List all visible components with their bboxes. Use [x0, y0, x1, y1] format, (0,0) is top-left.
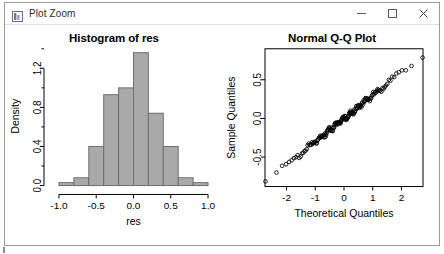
- qq-x-tick-label: 2: [399, 192, 405, 203]
- histogram-x-axis-label: res: [126, 216, 141, 227]
- plot-window-icon: [12, 8, 23, 19]
- histogram-x-tick-label: 0.0: [127, 200, 141, 211]
- qq-y-tick-label: 0.0: [251, 111, 262, 125]
- histogram-y-tick-label: 0.8: [31, 100, 42, 114]
- window-title: Plot Zoom: [29, 8, 75, 19]
- plot-zoom-window: Plot Zoom Histogram of re: [4, 2, 440, 246]
- qq-plot: -0.50.00.5Sample Quantiles-2-1012Theoret…: [223, 25, 439, 245]
- qq-x-axis-label: Theoretical Quantiles: [294, 208, 393, 219]
- histogram-x-tick-label: 0.5: [164, 200, 178, 211]
- histogram-bar: [74, 178, 89, 186]
- plot-surface: Histogram of res 0.00.40.81.2Density-1.0…: [5, 25, 439, 245]
- histogram-bar: [134, 53, 149, 186]
- histogram-x-tick-label: 1.0: [201, 200, 215, 211]
- qq-data-point: [400, 68, 404, 72]
- histogram-plot: 0.00.40.81.2Density-1.0-0.50.00.51.0res: [5, 25, 223, 245]
- histogram-bar: [119, 88, 134, 186]
- close-button[interactable]: [408, 3, 439, 24]
- qq-data-point: [280, 164, 284, 168]
- qq-y-axis-label: Sample Quantiles: [226, 77, 237, 159]
- histogram-bar: [193, 183, 208, 186]
- histogram-y-tick-label: 0.4: [31, 139, 42, 153]
- qq-x-tick-label: 1: [370, 192, 376, 203]
- qq-y-tick-label: 0.5: [251, 72, 262, 86]
- maximize-button[interactable]: [377, 3, 408, 24]
- histogram-bar: [104, 95, 119, 186]
- qq-x-tick-label: -1: [311, 192, 320, 203]
- qq-data-point: [404, 68, 408, 72]
- histogram-bar: [148, 113, 163, 185]
- histogram-x-tick-label: -0.5: [88, 200, 106, 211]
- histogram-x-tick-label: -1.0: [50, 200, 68, 211]
- histogram-y-tick-label: 0.0: [31, 178, 42, 192]
- histogram-bar: [163, 146, 178, 185]
- title-bar: Plot Zoom: [5, 3, 439, 25]
- qq-x-tick-label: 0: [341, 192, 347, 203]
- qq-data-point: [410, 64, 414, 68]
- window-resize-artifact: [3, 247, 5, 253]
- histogram-bar: [59, 183, 74, 186]
- histogram-y-axis-label: Density: [10, 98, 21, 133]
- qq-y-tick-label: -0.5: [251, 148, 262, 166]
- minimize-button[interactable]: [346, 3, 377, 24]
- qq-x-tick-label: -2: [282, 192, 291, 203]
- histogram-panel: Histogram of res 0.00.40.81.2Density-1.0…: [5, 25, 223, 245]
- window-controls: [346, 3, 439, 24]
- histogram-y-tick-label: 1.2: [31, 61, 42, 75]
- histogram-bar: [89, 146, 104, 185]
- histogram-bar: [178, 178, 193, 186]
- qq-panel: Normal Q-Q Plot -0.50.00.5Sample Quantil…: [223, 25, 439, 245]
- qq-data-point: [275, 171, 279, 175]
